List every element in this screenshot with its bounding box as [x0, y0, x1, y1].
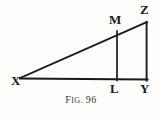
vertex-label-m: M — [109, 13, 121, 26]
segment-xy — [20, 79, 148, 80]
segment-xz — [20, 22, 147, 78]
vertex-label-z: Z — [140, 3, 149, 16]
caption-smallcaps: IG. — [71, 96, 83, 105]
figure-caption: FIG. 96 — [0, 94, 162, 105]
vertex-label-x: X — [11, 74, 20, 87]
caption-number: 96 — [86, 94, 97, 105]
figure-container: M Z X L Y FIG. 96 — [0, 0, 162, 118]
